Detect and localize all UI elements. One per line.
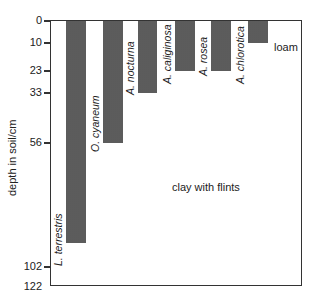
bar-o-cyaneum [103, 21, 123, 143]
y-axis-label: depth in soil/cm [6, 120, 18, 196]
bar-a-nocturna [138, 21, 157, 93]
bar-label: L. terrestris [52, 213, 64, 266]
bar-label: A. nocturna [124, 41, 136, 95]
bar-a-caliginosa [175, 21, 195, 71]
y-tick-label: 102 [24, 260, 42, 272]
y-tick [44, 92, 51, 94]
clay-annotation: clay with flints [172, 181, 240, 193]
bar-label: A. chlorotica [234, 26, 246, 84]
y-tick-label: 122 [24, 280, 42, 292]
y-tick-label: 56 [30, 136, 42, 148]
y-tick [44, 42, 51, 44]
bar-label: A. rosea [197, 37, 209, 76]
bar-a-rosea [211, 21, 231, 71]
bar-label: A. caliginosa [161, 24, 173, 84]
bar-l-terrestris [66, 21, 86, 243]
y-tick [44, 20, 51, 22]
bar-label: O. cyaneum [89, 95, 101, 152]
y-tick-label: 33 [30, 86, 42, 98]
depth-bar-chart: depth in soil/cm 0 10 23 33 56 102 122 L… [0, 0, 319, 307]
y-tick-label: 10 [30, 36, 42, 48]
y-tick-label: 23 [30, 64, 42, 76]
bar-a-chlorotica [248, 21, 268, 43]
y-tick [44, 266, 51, 268]
y-tick-label: 0 [36, 14, 42, 26]
y-tick [44, 142, 51, 144]
y-tick [44, 70, 51, 72]
loam-annotation: loam [274, 41, 298, 53]
